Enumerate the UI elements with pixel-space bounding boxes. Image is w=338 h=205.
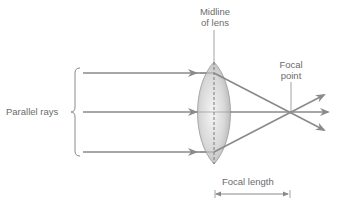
midline-label-line2: of lens (194, 17, 236, 28)
midline-label: Midline of lens (194, 6, 236, 28)
midline-label-line1: Midline (194, 6, 236, 17)
focal-point-label-line2: point (272, 70, 310, 81)
parallel-rays-label: Parallel rays (6, 106, 58, 117)
focal-length-label: Focal length (222, 176, 274, 187)
focal-point-label: Focal point (272, 59, 310, 81)
lens-diagram (0, 0, 338, 205)
parallel-rays-brace (71, 68, 80, 156)
focal-point-label-line1: Focal (272, 59, 310, 70)
